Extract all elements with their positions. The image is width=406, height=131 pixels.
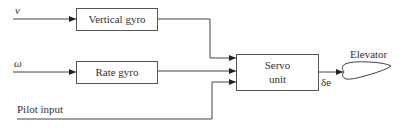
vertical-gyro-block: Vertical gyro: [76, 8, 158, 31]
servo-label-line1: Servo: [265, 59, 291, 73]
elevator-shape: [342, 62, 391, 79]
omega-input-label: ω: [14, 58, 22, 69]
rate-gyro-block: Rate gyro: [76, 61, 158, 84]
vertical-gyro-to-servo-arrow: [157, 19, 236, 58]
servo-unit-block: Servo unit: [236, 54, 319, 91]
v-input-label: v: [15, 5, 20, 16]
elevator-label: Elevator: [350, 49, 387, 60]
servo-label-line2: unit: [269, 73, 286, 87]
rate-gyro-label: Rate gyro: [95, 66, 138, 80]
pilot-input-label: Pilot input: [17, 104, 63, 115]
servo-output-label: δe: [321, 77, 331, 88]
vertical-gyro-label: Vertical gyro: [88, 13, 145, 27]
